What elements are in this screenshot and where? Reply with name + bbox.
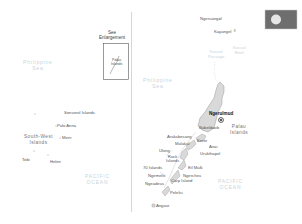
place-tobi: Tobi	[22, 158, 30, 162]
group-line2: Islands	[24, 140, 53, 146]
place-rock-islands: Rock Islands	[166, 155, 179, 163]
rock-line2: Islands	[166, 159, 179, 163]
map-graphics	[0, 0, 302, 224]
left-philippine-sea-label: Philippine Sea	[23, 60, 53, 72]
sea-line2: Sea	[23, 66, 53, 72]
place-kayangel: Kayangel	[214, 30, 231, 34]
reef-line2: Passage	[208, 55, 224, 60]
palau-map: See Enlargement Palau Islands Philippine…	[0, 0, 302, 224]
inset-label: Palau Islands	[111, 59, 122, 66]
place-ngeruangel: Ngeruangel	[200, 17, 222, 21]
place-pulo-anna: Pulo Anna	[57, 124, 76, 128]
palau-islands-label: Palau Islands	[230, 124, 248, 135]
peleliu-island	[162, 186, 170, 196]
place-sonsorol: Sonsorol Islands	[64, 111, 95, 115]
group-line2: Islands	[230, 130, 248, 136]
place-angaur: Angaur	[156, 204, 170, 208]
left-pacific-ocean-label: PACIFIC OCEAN	[85, 174, 110, 186]
capital-ngerulmud: Ngerulmud	[209, 112, 233, 117]
kossol-passage-label: Kossol Passage	[208, 50, 224, 60]
reef-line2: Reef	[233, 51, 246, 56]
right-pacific-ocean-label: PACIFIC OCEAN	[218, 179, 243, 191]
place-peleliu: Peleliu	[170, 191, 183, 195]
right-philippine-sea-label: Philippine Sea	[143, 78, 173, 90]
sea-line2: Sea	[143, 84, 173, 90]
place-ulong: Ulong	[159, 149, 170, 153]
inset-label-line2: Islands	[111, 63, 122, 67]
place-koror: Koror	[197, 139, 207, 143]
place-ngeadeus: Ngeadeus	[145, 182, 164, 186]
place-ngemelis: Ngemelis	[148, 174, 165, 178]
inset-title-line2: Enlargement	[99, 35, 125, 40]
place-carp-island: Carp Island	[171, 179, 192, 183]
place-babeldaob: Babeldaob	[199, 126, 219, 130]
place-arakabesang: Arakabesang	[167, 135, 192, 139]
place-urukthapel: Urukthapel	[200, 152, 220, 156]
south-west-islands-label: South-West Islands	[24, 134, 53, 145]
angaur-island	[152, 204, 155, 207]
ocean-line2: OCEAN	[85, 180, 110, 186]
place-70-islands: 70 Islands	[143, 166, 162, 170]
place-merir: Merir	[62, 136, 72, 140]
flag-disc	[271, 15, 281, 25]
place-airai: Airai	[209, 145, 217, 149]
place-helen: Helen	[50, 160, 61, 164]
group-line1: South-West	[24, 134, 53, 140]
place-malakal: Malakal	[175, 142, 189, 146]
place-eil-malk: Eil Malk	[188, 166, 203, 170]
ocean-line2: OCEAN	[218, 185, 243, 191]
inset-title: See Enlargement	[99, 30, 125, 40]
kossol-reef-label: Kossol Reef	[233, 46, 246, 56]
group-line1: Palau	[230, 124, 248, 130]
